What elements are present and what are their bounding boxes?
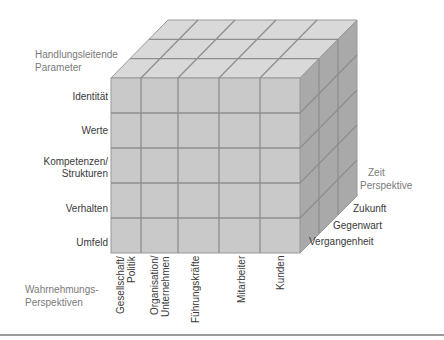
horizontal-axis-title-line2: Perspektiven [25,296,99,309]
depth-label-zukunft: Zukunft [353,203,386,215]
column-label-gesellschaft-line2: Politik [126,256,137,318]
depth-axis-title: Zeit Perspektive [368,166,412,192]
column-label-mitarbeiter: Mitarbeiter [236,256,247,316]
column-label-organisation: Organisation/ Unternehmen [149,256,171,326]
row-label-umfeld: Umfeld [76,237,108,249]
cube-front-face [111,78,300,253]
column-label-kunden-line1: Kunden [275,256,286,290]
vertical-axis-title-line1: Handlungsleitende [35,48,118,61]
depth-axis-title-line2: Perspektive [360,179,412,192]
depth-label-gegenwart: Gegenwart [333,220,382,232]
row-label-werte: Werte [82,125,109,137]
column-label-mitarbeiter-line1: Mitarbeiter [236,256,247,316]
column-label-organisation-line2: Unternehmen [160,256,171,326]
row-label-kompetenzen: Kompetenzen/ Strukturen [44,156,109,180]
row-label-kompetenzen-line1: Kompetenzen/ [44,156,109,168]
depth-axis-title-line1: Zeit [368,166,412,179]
row-label-identitaet: Identität [72,91,108,103]
column-label-fuehrungskraefte: Führungskräfte [190,256,201,326]
column-label-organisation-line1: Organisation/ [149,256,160,326]
column-label-gesellschaft: Gesellschaft/ Politik [115,256,137,318]
column-label-kunden: Kunden [275,256,286,290]
depth-label-vergangenheit: Vergangenheit [309,236,374,248]
horizontal-axis-title: Wahrnehmungs- Perspektiven [25,283,99,309]
horizontal-axis-title-line1: Wahrnehmungs- [25,283,99,296]
vertical-axis-title: Handlungsleitende Parameter [35,48,118,74]
row-label-kompetenzen-line2: Strukturen [44,168,109,180]
vertical-axis-title-line2: Parameter [35,61,118,74]
column-label-fuehrungskraefte-line1: Führungskräfte [190,256,201,326]
row-label-verhalten: Verhalten [66,203,108,215]
bottom-divider [0,334,444,336]
column-label-gesellschaft-line1: Gesellschaft/ [115,256,126,318]
